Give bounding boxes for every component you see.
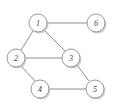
graph-edge-2-4	[21, 66, 35, 81]
graph-node-3[interactable]: 3	[62, 49, 81, 69]
node-label-5: 5	[93, 85, 97, 94]
node-label-6: 6	[94, 19, 98, 28]
graph-diagram: 123456	[0, 0, 116, 107]
graph-node-5[interactable]: 5	[86, 80, 105, 100]
node-label-1: 1	[36, 19, 40, 28]
node-layer: 123456	[7, 14, 106, 100]
graph-edge-1-3	[44, 30, 65, 51]
graph-edge-3-5	[77, 65, 89, 81]
graph-node-1[interactable]: 1	[29, 14, 48, 34]
graph-canvas: 123456	[0, 0, 116, 107]
graph-edge-1-2	[21, 31, 33, 50]
graph-node-6[interactable]: 6	[87, 14, 106, 34]
node-label-4: 4	[38, 85, 42, 94]
graph-node-2[interactable]: 2	[7, 49, 26, 69]
node-label-3: 3	[68, 54, 73, 63]
graph-node-4[interactable]: 4	[31, 80, 50, 100]
node-label-2: 2	[14, 54, 18, 63]
